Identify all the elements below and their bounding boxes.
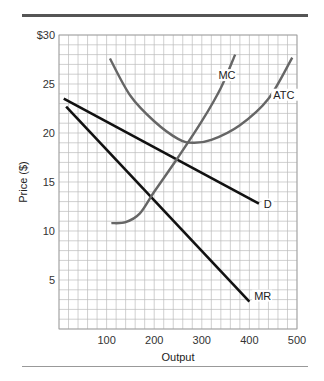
y-tick-label: $30: [37, 29, 55, 41]
y-tick-label: 10: [43, 225, 55, 237]
curve-label-mr: MR: [254, 290, 271, 302]
curve-atc: [110, 58, 292, 143]
y-axis-label: Price ($): [17, 161, 29, 203]
x-tick-label: 200: [145, 334, 163, 346]
x-tick-label: 100: [97, 334, 115, 346]
y-tick-label: 15: [43, 176, 55, 188]
x-tick-label: 300: [193, 334, 211, 346]
x-tick-label: 400: [240, 334, 258, 346]
curve-label-d: D: [264, 198, 272, 210]
y-tick-label: 20: [43, 127, 55, 139]
curve-d: [64, 99, 259, 204]
curve-label-mc: MC: [218, 69, 235, 81]
y-tick-label: 5: [49, 274, 55, 286]
y-tick-label: 25: [43, 78, 55, 90]
economics-chart: 100200300400500510152025$30OutputPrice (…: [0, 0, 324, 381]
x-tick-label: 500: [288, 334, 306, 346]
x-axis-label: Output: [161, 351, 194, 363]
curve-label-atc: ATC: [273, 89, 294, 101]
